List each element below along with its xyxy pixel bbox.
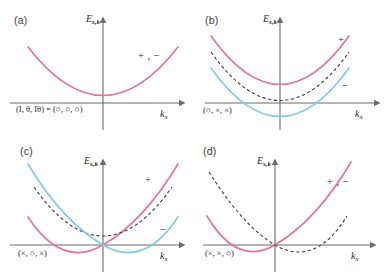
parity-label-a: (I, θ, Iθ) = (○, ○, ○) bbox=[16, 104, 83, 114]
x-axis-label: kx bbox=[351, 250, 359, 261]
y-axis-label: Es,k bbox=[257, 155, 271, 166]
panel-tag-a: (a) bbox=[14, 14, 27, 26]
branch-label-plus: + bbox=[338, 34, 344, 45]
panel-a: (a) Es,k kx + , − (I, θ, Iθ) = (○, ○, ○) bbox=[0, 0, 194, 140]
parity-label-d: (×, ×, ○) bbox=[205, 248, 234, 258]
panel-d: (d) Es,k kx + , − (×, ×, ○) bbox=[195, 140, 389, 280]
panel-tag-b: (b) bbox=[205, 14, 218, 26]
branch-label-minus: − bbox=[342, 80, 348, 91]
panel-tag-d: (d) bbox=[203, 145, 216, 157]
branch-label-plus-minus: + , − bbox=[327, 176, 349, 187]
x-axis-label: kx bbox=[355, 108, 363, 119]
x-axis-label: kx bbox=[160, 250, 168, 261]
y-axis-label: Es,k bbox=[86, 13, 100, 24]
y-axis-label: Es,k bbox=[263, 13, 277, 24]
parity-label-b: (○, ×, ×) bbox=[203, 105, 232, 115]
branch-label-minus: − bbox=[160, 224, 166, 235]
y-axis-label: Es,k bbox=[84, 155, 98, 166]
branch-label-plus-minus: + , − bbox=[138, 50, 160, 61]
parity-label-c: (×, ○, ×) bbox=[18, 248, 47, 258]
x-axis-label: kx bbox=[160, 108, 168, 119]
panel-b: (b) Es,k kx + − (○, ×, ×) bbox=[195, 0, 389, 140]
figure-band-dispersion-panels: (a) Es,k kx + , − (I, θ, Iθ) = (○, ○, ○) bbox=[0, 0, 389, 280]
panel-c: (c) Es,k kx + − (×, ○, ×) bbox=[0, 140, 194, 280]
panel-d-plot bbox=[195, 140, 389, 280]
branch-label-plus: + bbox=[145, 174, 151, 185]
panel-tag-c: (c) bbox=[20, 145, 33, 157]
